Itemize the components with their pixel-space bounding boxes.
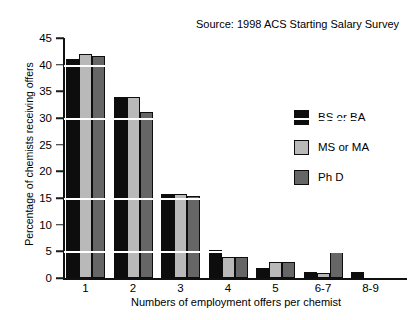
- bar: [79, 54, 92, 278]
- x-axis-line: [63, 278, 407, 280]
- x-axis-title: Numbers of employment offers per chemist: [64, 296, 408, 308]
- y-axis-tick-label: 40: [26, 59, 52, 70]
- bar: [330, 251, 343, 278]
- bar-group: [209, 24, 248, 278]
- bar: [256, 268, 269, 278]
- gridline: [64, 65, 358, 67]
- bar: [269, 262, 282, 278]
- legend-item-label: Ph D: [318, 171, 344, 183]
- y-axis-tick-mark: [56, 251, 63, 253]
- bar: [317, 273, 330, 278]
- y-axis-tick-mark: [56, 171, 63, 173]
- bar: [161, 194, 174, 278]
- bar: [66, 59, 79, 278]
- y-axis-tick-label: 0: [26, 273, 52, 284]
- bar: [282, 262, 295, 278]
- legend-swatch-icon: [294, 110, 309, 125]
- y-axis-tick-mark: [56, 37, 64, 39]
- legend-item[interactable]: Ph D: [294, 164, 414, 190]
- y-axis-tick-label: 45: [26, 33, 52, 44]
- bar-group: [114, 24, 153, 278]
- y-axis-tick-label: 10: [26, 219, 52, 230]
- gridline: [64, 198, 358, 200]
- bar-group: [66, 24, 105, 278]
- y-axis-tick-mark: [56, 144, 63, 146]
- bar: [187, 196, 200, 278]
- legend-item-label: BS or BA: [318, 111, 365, 123]
- y-axis-tick-label: 15: [26, 193, 52, 204]
- bar: [304, 272, 317, 278]
- legend-item[interactable]: MS or MA: [294, 134, 414, 160]
- y-axis-tick-mark: [56, 224, 63, 226]
- y-axis-tick-mark: [56, 91, 63, 93]
- legend-item-label: MS or MA: [318, 141, 369, 153]
- bar: [222, 257, 235, 278]
- y-axis-tick-mark: [56, 197, 63, 199]
- y-axis-tick-label: 25: [26, 139, 52, 150]
- legend-swatch-icon: [294, 140, 309, 155]
- legend-swatch-icon: [294, 170, 309, 185]
- legend-item[interactable]: BS or BA: [294, 104, 414, 130]
- bar: [235, 257, 248, 278]
- y-axis-tick-labels: 051015202530354045: [26, 0, 52, 320]
- gridline: [64, 251, 358, 253]
- y-axis-tick-mark: [56, 117, 63, 119]
- y-axis-tick-mark: [56, 277, 63, 279]
- y-axis-tick-label: 30: [26, 113, 52, 124]
- x-axis-tick-label: 8-9: [341, 282, 401, 294]
- bar-group: [256, 24, 295, 278]
- y-axis-tick-mark: [56, 64, 63, 66]
- bar: [92, 56, 105, 278]
- bar: [174, 194, 187, 278]
- y-axis-tick-label: 35: [26, 86, 52, 97]
- y-axis-tick-label: 20: [26, 166, 52, 177]
- bar-chart: Percentage of chemists receiving offers …: [0, 0, 420, 320]
- y-axis-tick-label: 5: [26, 246, 52, 257]
- gridline: [64, 118, 358, 120]
- bar: [209, 250, 222, 278]
- bar: [351, 272, 364, 278]
- bar-group: [161, 24, 200, 278]
